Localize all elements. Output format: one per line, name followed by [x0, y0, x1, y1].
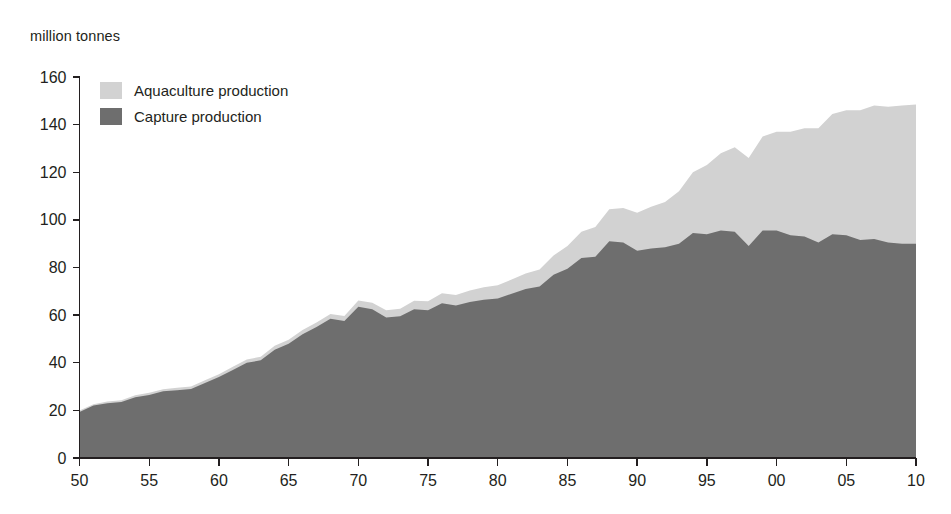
legend-label: Aquaculture production: [134, 82, 288, 99]
y-tick-label: 160: [40, 69, 67, 86]
y-tick-label: 40: [49, 354, 67, 371]
x-axis: 50556065707580859095000510: [71, 458, 925, 489]
y-tick-label: 80: [49, 259, 67, 276]
chart-legend: Aquaculture productionCapture production: [100, 82, 288, 125]
y-tick-label: 100: [40, 211, 67, 228]
x-tick-label: 00: [768, 472, 786, 489]
y-tick-label: 60: [49, 307, 67, 324]
x-tick-label: 95: [698, 472, 716, 489]
y-tick-label: 0: [58, 450, 67, 467]
x-tick-label: 05: [837, 472, 855, 489]
x-tick-label: 60: [210, 472, 228, 489]
y-tick-label: 120: [40, 164, 67, 181]
chart-container: million tonnes 020406080100120140160 505…: [0, 0, 951, 514]
x-tick-label: 75: [419, 472, 437, 489]
legend-swatch: [100, 108, 122, 125]
legend-label: Capture production: [134, 108, 262, 125]
legend-swatch: [100, 82, 122, 99]
x-tick-label: 90: [628, 472, 646, 489]
x-tick-label: 50: [71, 472, 89, 489]
x-tick-label: 65: [280, 472, 298, 489]
x-tick-label: 80: [489, 472, 507, 489]
x-tick-label: 55: [140, 472, 158, 489]
y-tick-label: 20: [49, 402, 67, 419]
x-tick-label: 70: [349, 472, 367, 489]
stacked-area-chart: 020406080100120140160 505560657075808590…: [0, 0, 951, 514]
y-tick-label: 140: [40, 116, 67, 133]
plot-area: [80, 104, 917, 458]
area-capture: [80, 231, 917, 458]
x-tick-label: 10: [907, 472, 925, 489]
x-tick-label: 85: [559, 472, 577, 489]
